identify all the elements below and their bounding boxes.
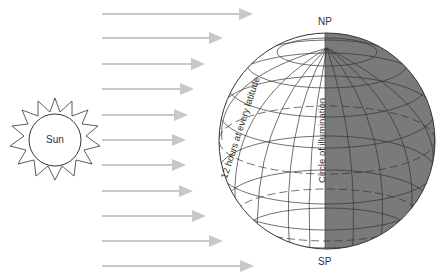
sun-label: Sun [40,134,70,145]
earth-globe [219,30,445,258]
diagram-canvas: NP SP Sun 12 hours at every latitude Cir… [0,0,445,279]
north-pole-label: NP [318,16,332,27]
south-pole-label: SP [318,256,331,267]
circle-of-illumination-label: Circle of illumination [316,86,327,196]
